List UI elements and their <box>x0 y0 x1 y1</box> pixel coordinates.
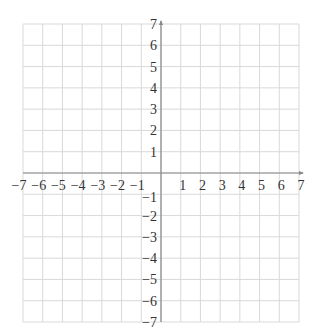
x-tick-label: 4 <box>238 178 245 193</box>
x-tick-label: 2 <box>199 178 206 193</box>
y-tick-label: 3 <box>150 102 157 117</box>
y-tick-label: 7 <box>150 17 157 32</box>
y-tick-label: −2 <box>142 209 157 224</box>
y-tick-label: 1 <box>150 145 157 160</box>
x-tick-label: 1 <box>179 178 186 193</box>
y-tick-label: −5 <box>142 272 157 287</box>
x-tick-label: 6 <box>278 178 285 193</box>
x-tick-label: 3 <box>219 178 226 193</box>
y-tick-label: 5 <box>150 60 157 75</box>
y-tick-label: −6 <box>142 294 157 309</box>
y-tick-label: −1 <box>142 190 157 205</box>
x-axis-arrow-icon <box>299 171 304 175</box>
x-tick-label: −7 <box>12 178 27 193</box>
y-tick-label: 4 <box>150 81 157 96</box>
y-tick-label: −4 <box>142 251 157 266</box>
y-tick-label: 2 <box>150 123 157 138</box>
axes <box>23 20 304 322</box>
x-tick-label: −2 <box>110 178 125 193</box>
x-axis-tick-labels: −7−6−5−4−3−2−11234567 <box>12 178 305 193</box>
x-tick-label: −4 <box>71 178 86 193</box>
x-tick-label: −6 <box>31 178 46 193</box>
x-tick-label: 7 <box>298 178 305 193</box>
coordinate-plane: −7−6−5−4−3−2−11234567 7654321−1−2−3−4−5−… <box>0 0 319 334</box>
y-tick-label: −3 <box>142 230 157 245</box>
y-axis-arrow-icon <box>159 20 163 25</box>
x-tick-label: 5 <box>258 178 265 193</box>
x-tick-label: −5 <box>51 178 66 193</box>
y-tick-label: −7 <box>142 315 157 330</box>
y-tick-label: 6 <box>150 38 157 53</box>
x-tick-label: −3 <box>90 178 105 193</box>
